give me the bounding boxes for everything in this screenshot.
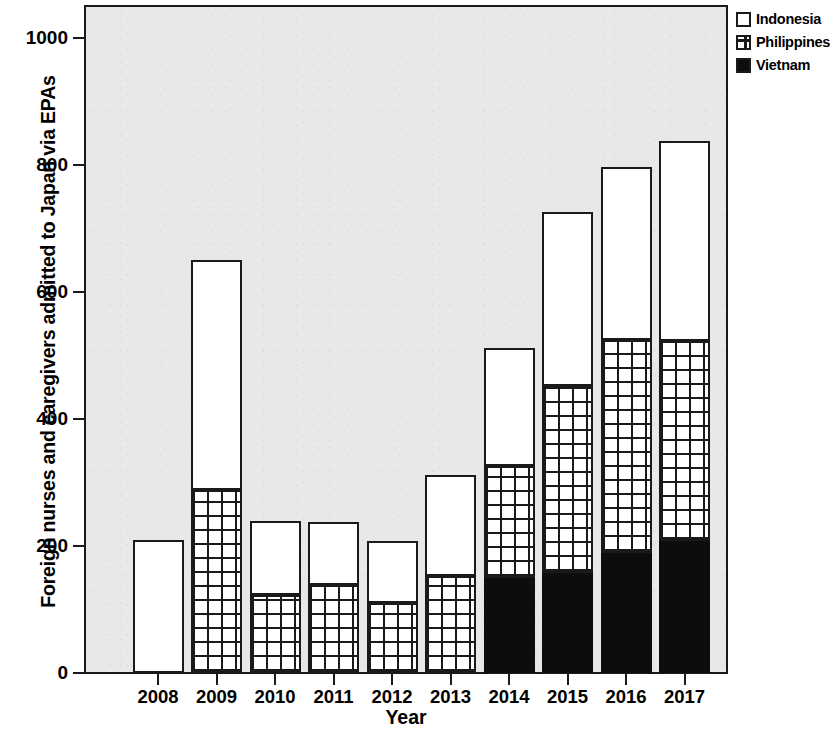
- x-tick-mark: [216, 674, 218, 685]
- chart-legend: IndonesiaPhilippinesVietnam: [736, 8, 809, 77]
- x-tick-mark: [391, 674, 393, 685]
- x-tick-mark: [450, 674, 452, 685]
- legend-item-indonesia: Indonesia: [736, 8, 809, 30]
- x-tick-mark: [508, 674, 510, 685]
- legend-item-vietnam: Vietnam: [736, 54, 809, 76]
- legend-item-philippines: Philippines: [736, 31, 809, 53]
- legend-swatch-indonesia: [736, 12, 751, 27]
- legend-swatch-philippines: [736, 35, 751, 50]
- legend-label: Vietnam: [756, 57, 810, 73]
- x-tick-mark: [274, 674, 276, 685]
- legend-label: Philippines: [756, 34, 830, 50]
- x-axis-title: Year: [84, 706, 728, 729]
- legend-swatch-vietnam: [736, 58, 751, 73]
- x-tick-mark: [684, 674, 686, 685]
- x-tick-label: 2017: [650, 688, 720, 707]
- x-tick-mark: [333, 674, 335, 685]
- x-tick-mark: [157, 674, 159, 685]
- legend-label: Indonesia: [756, 11, 821, 27]
- x-tick-mark: [567, 674, 569, 685]
- x-tick-mark: [625, 674, 627, 685]
